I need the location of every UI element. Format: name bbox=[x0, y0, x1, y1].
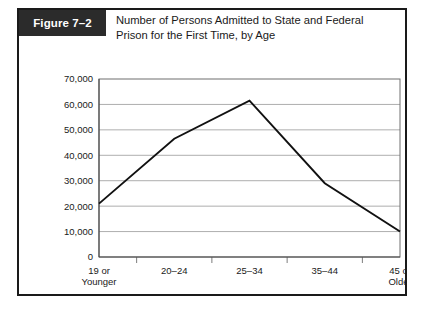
y-axis-tick-label: 50,000 bbox=[64, 124, 93, 135]
data-series-line bbox=[99, 101, 400, 232]
x-axis-tick-label: 35–44 bbox=[312, 265, 338, 276]
figure-frame: Figure 7–2 Number of Persons Admitted to… bbox=[17, 8, 407, 296]
y-axis-tick-label: 20,000 bbox=[64, 201, 93, 212]
x-axis-tick-label: 20–24 bbox=[161, 265, 187, 276]
y-axis-tick-label: 40,000 bbox=[64, 150, 93, 161]
y-axis-tick-label: 10,000 bbox=[64, 226, 93, 237]
y-axis-tick-label: 0 bbox=[88, 251, 93, 262]
x-axis-tick-label: Older bbox=[388, 276, 405, 287]
y-axis-tick-labels: 010,00020,00030,00040,00050,00060,00070,… bbox=[64, 73, 93, 262]
x-axis-tick-label: Younger bbox=[81, 276, 116, 287]
plot-area-border bbox=[99, 79, 400, 257]
x-axis-tick-label: 25–34 bbox=[236, 265, 262, 276]
y-axis-tick-label: 60,000 bbox=[64, 99, 93, 110]
x-axis-tick-marks bbox=[137, 257, 363, 263]
y-axis-tick-label: 70,000 bbox=[64, 73, 93, 84]
y-axis-tick-label: 30,000 bbox=[64, 175, 93, 186]
x-axis-tick-label: 19 or bbox=[88, 265, 110, 276]
line-chart: 010,00020,00030,00040,00050,00060,00070,… bbox=[19, 10, 405, 294]
chart-region: 010,00020,00030,00040,00050,00060,00070,… bbox=[19, 10, 405, 294]
x-axis-tick-labels: 19 orYounger20–2425–3435–4445 orOlder bbox=[81, 265, 405, 287]
gridlines-group bbox=[99, 104, 400, 231]
x-axis-tick-label: 45 or bbox=[389, 265, 405, 276]
